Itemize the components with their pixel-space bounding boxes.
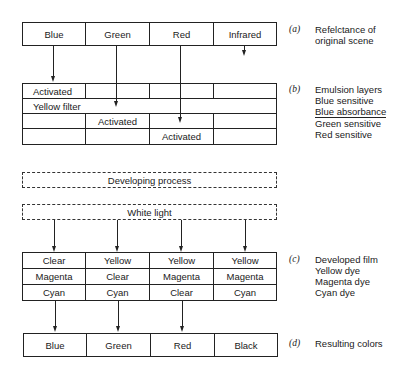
developed-cell: Yellow: [85, 252, 150, 269]
arrow-down-icon: [51, 76, 55, 82]
result-cell-red: Red: [150, 333, 215, 357]
caption-line: Red sensitive: [315, 129, 386, 140]
developed-cell: Magenta: [213, 268, 277, 285]
emulsion-cell: [213, 113, 277, 129]
arrow-line: [55, 300, 56, 327]
developed-cell: Cyan: [22, 284, 86, 301]
emulsion-cell: [22, 128, 86, 145]
developing-process-box: Developing process: [22, 172, 277, 188]
tag-b: (b): [289, 84, 300, 94]
emulsion-cell: [149, 83, 214, 99]
arrow-down-icon: [180, 326, 184, 332]
caption-line: Yellow dye: [315, 265, 378, 276]
caption-line: Green sensitive: [315, 118, 386, 129]
developed-cell: Magenta: [149, 268, 214, 285]
result-cell-green: Green: [86, 333, 151, 357]
arrow-blue-line: [53, 45, 54, 77]
caption-line-underlined: Blue absorbance: [315, 106, 386, 118]
caption-line: original scene: [315, 35, 376, 46]
caption-line: Refelctance of: [315, 24, 376, 35]
emulsion-cell: [213, 83, 277, 99]
emulsion-cell: [85, 128, 150, 145]
emulsion-cell: [22, 113, 86, 129]
emulsion-cell: [213, 128, 277, 145]
emulsion-green-activated: Activated: [85, 113, 150, 129]
caption-line: Emulsion layers: [315, 84, 386, 95]
developed-cell: Cyan: [85, 284, 150, 301]
emulsion-red-activated: Activated: [149, 128, 214, 145]
tag-c: (c): [289, 254, 300, 264]
caption-line: Magenta dye: [315, 276, 378, 287]
emulsion-caption: Emulsion layers Blue sensitive Blue abso…: [315, 84, 386, 140]
caption-line: Developed film: [315, 254, 378, 265]
emulsion-yellow-filter: Yellow filter: [22, 98, 277, 114]
developed-cell: Yellow: [213, 252, 277, 269]
reflectance-cell-infrared: Infrared: [213, 22, 277, 46]
reflectance-cell-green: Green: [85, 22, 150, 46]
caption-line: Cyan dye: [315, 287, 378, 298]
result-cell-blue: Blue: [23, 333, 87, 357]
tag-d: (d): [289, 338, 300, 348]
white-light-box: White light: [22, 204, 277, 220]
arrow-line: [181, 220, 182, 247]
tag-a: (a): [289, 24, 300, 34]
reflectance-cell-blue: Blue: [22, 22, 86, 46]
developed-cell: Magenta: [22, 268, 86, 285]
arrow-line: [118, 300, 119, 327]
arrow-down-icon: [242, 50, 246, 56]
developed-cell: Cyan: [213, 284, 277, 301]
reflectance-caption: Refelctance of original scene: [315, 24, 376, 46]
arrow-down-icon: [53, 326, 57, 332]
developed-cell: Yellow: [149, 252, 214, 269]
emulsion-blue-activated: Activated: [22, 83, 86, 99]
developed-cell: Clear: [149, 284, 214, 301]
caption-line: Blue sensitive: [315, 95, 386, 106]
emulsion-cell: [149, 113, 214, 129]
developed-cell: Clear: [85, 268, 150, 285]
arrow-line: [245, 220, 246, 247]
arrow-line: [117, 220, 118, 247]
emulsion-cell: [85, 83, 150, 99]
result-caption: Resulting colors: [315, 338, 383, 349]
reflectance-cell-red: Red: [149, 22, 214, 46]
developed-cell: Clear: [22, 252, 86, 269]
arrow-line: [54, 220, 55, 247]
arrow-down-icon: [116, 326, 120, 332]
arrow-line: [182, 300, 183, 327]
developed-caption: Developed film Yellow dye Magenta dye Cy…: [315, 254, 378, 298]
result-cell-black: Black: [214, 333, 278, 357]
